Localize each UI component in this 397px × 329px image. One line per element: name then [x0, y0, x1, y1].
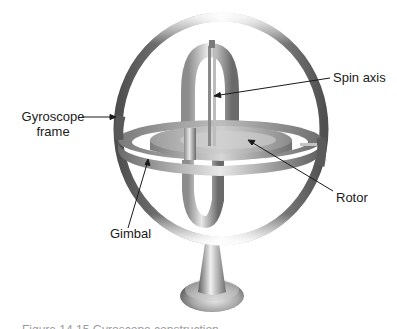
- label-spin-axis: Spin axis: [333, 70, 386, 85]
- frame-front-right: [320, 138, 322, 166]
- pedestal: [180, 243, 244, 312]
- gyroscope-illustration: [0, 0, 397, 329]
- label-gimbal: Gimbal: [110, 226, 151, 241]
- label-gyroscope-frame-line1: Gyroscope: [18, 109, 88, 124]
- label-gyroscope-frame: Gyroscope frame: [18, 109, 88, 139]
- label-rotor: Rotor: [336, 190, 368, 205]
- frame-front-left: [119, 116, 121, 140]
- figure-caption-cropped: Figure 14.15 Gyroscope construction: [22, 322, 219, 329]
- vertical-gimbal-front: [184, 128, 196, 160]
- gyroscope-diagram: Gyroscope frame Spin axis Rotor Gimbal F…: [0, 0, 397, 329]
- label-gyroscope-frame-line2: frame: [18, 124, 88, 139]
